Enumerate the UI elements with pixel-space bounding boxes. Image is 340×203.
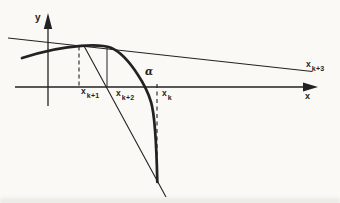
label-x-k-plus-3: x k+3	[306, 60, 325, 72]
tangent-line-flat	[8, 38, 313, 72]
label-x-k-plus-3-sub: k+3	[312, 65, 325, 72]
label-x-k-plus-2-sub: k+2	[122, 94, 135, 101]
label-x-k-plus-1: x k+1	[81, 87, 100, 99]
label-x-k-plus-1-base: x	[81, 87, 86, 96]
function-curve	[22, 45, 157, 182]
label-x-k-plus-2: x k+2	[116, 89, 135, 101]
label-x-k-plus-3-base: x	[306, 60, 311, 69]
newton-method-diagram: y x α x k+1 x k+2 x k x k+3	[0, 0, 340, 203]
scan-artifact	[0, 196, 340, 203]
label-x-k-plus-2-base: x	[116, 89, 121, 98]
label-x-k-base: x	[162, 89, 167, 98]
label-x-k-plus-1-sub: k+1	[87, 92, 100, 99]
label-x-k-sub: k	[168, 94, 172, 101]
root-alpha-label: α	[145, 66, 153, 77]
y-axis-label: y	[35, 13, 41, 23]
x-axis-label: x	[305, 92, 310, 101]
y-axis-arrowhead-icon	[44, 13, 52, 29]
diagram-canvas	[0, 0, 340, 203]
label-x-k: x k	[162, 89, 172, 101]
